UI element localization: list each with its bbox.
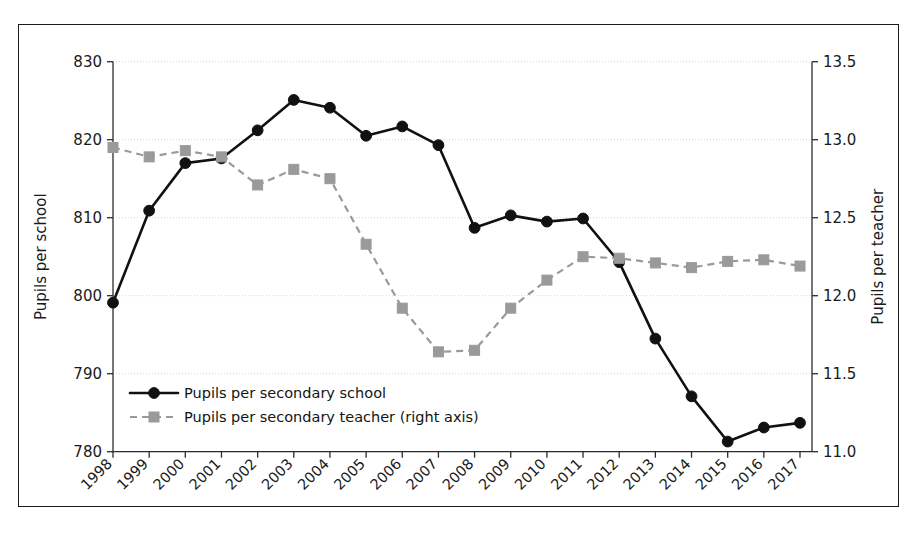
data-point-school (288, 95, 299, 106)
data-point-teacher (144, 152, 154, 162)
x-axis-tick-label: 2007 (403, 456, 440, 493)
data-point-teacher (795, 261, 805, 271)
x-axis-tick-label: 2010 (512, 456, 549, 493)
x-axis-tick-label: 2004 (295, 456, 332, 493)
right-axis-tick-label: 12.0 (823, 287, 856, 305)
left-axis-tick-label: 800 (73, 287, 102, 305)
line-chart: 78079080081082083011.011.512.012.513.013… (0, 0, 920, 533)
data-point-school (144, 205, 155, 216)
data-point-teacher (325, 174, 335, 184)
data-point-school (361, 130, 372, 141)
chart-legend[interactable]: Pupils per secondary schoolPupils per se… (130, 385, 479, 425)
data-point-teacher (180, 146, 190, 156)
data-point-teacher (397, 303, 407, 313)
data-point-teacher (759, 255, 769, 265)
data-point-teacher (542, 275, 552, 285)
data-point-teacher (687, 263, 697, 273)
x-axis-tick-label: 2016 (729, 456, 766, 493)
data-point-teacher (578, 252, 588, 262)
x-axis-tick-label: 2015 (692, 456, 729, 493)
x-axis-tick-label: 2001 (186, 456, 223, 493)
data-point-school (505, 210, 516, 221)
left-axis-tick-label: 810 (73, 209, 102, 227)
left-axis-title: Pupils per school (32, 193, 50, 320)
data-point-school (541, 216, 552, 227)
x-axis-tick-label: 1999 (114, 456, 151, 493)
data-point-school (650, 333, 661, 344)
legend-label-school: Pupils per secondary school (184, 385, 386, 401)
data-point-teacher (506, 303, 516, 313)
right-axis-title: Pupils per teacher (869, 188, 887, 325)
x-axis-tick-label: 2017 (765, 456, 802, 493)
legend-marker-school (149, 388, 160, 399)
x-axis-tick-label: 2002 (222, 456, 259, 493)
data-point-teacher (723, 256, 733, 266)
data-point-school (758, 422, 769, 433)
data-point-school (469, 222, 480, 233)
left-axis-tick-label: 780 (73, 443, 102, 461)
data-point-teacher (108, 143, 118, 153)
data-point-teacher (289, 164, 299, 174)
x-axis-tick-label: 2012 (584, 456, 621, 493)
data-point-school (795, 417, 806, 428)
data-point-teacher (433, 347, 443, 357)
right-axis-tick-label: 11.5 (823, 365, 856, 383)
chart-root: 78079080081082083011.011.512.012.513.013… (0, 0, 920, 533)
x-axis-tick-label: 2005 (331, 456, 368, 493)
data-point-school (108, 297, 119, 308)
left-axis-tick-label: 830 (73, 53, 102, 71)
data-point-school (686, 391, 697, 402)
data-point-school (397, 121, 408, 132)
right-axis-tick-label: 13.5 (823, 53, 856, 71)
data-point-teacher (253, 180, 263, 190)
right-axis-tick-label: 13.0 (823, 131, 856, 149)
data-point-teacher (470, 345, 480, 355)
left-axis-tick-label: 820 (73, 131, 102, 149)
x-axis-tick-label: 2008 (439, 456, 476, 493)
series-line-teacher (113, 148, 800, 352)
data-point-teacher (216, 152, 226, 162)
right-axis-tick-label: 12.5 (823, 209, 856, 227)
left-axis-tick-label: 790 (73, 365, 102, 383)
x-axis-tick-label: 2014 (656, 456, 693, 493)
x-axis-tick-label: 2003 (259, 456, 296, 493)
data-point-school (325, 102, 336, 113)
data-point-school (722, 436, 733, 447)
x-axis-tick-label: 2009 (475, 456, 512, 493)
x-axis-tick-label: 2013 (620, 456, 657, 493)
legend-label-teacher: Pupils per secondary teacher (right axis… (184, 409, 479, 425)
data-point-school (433, 140, 444, 151)
data-point-teacher (650, 258, 660, 268)
data-point-teacher (361, 239, 371, 249)
x-axis-tick-label: 2000 (150, 456, 187, 493)
data-point-teacher (614, 253, 624, 263)
right-axis-tick-label: 11.0 (823, 443, 856, 461)
x-axis-tick-label: 2011 (548, 456, 585, 493)
data-point-school (252, 125, 263, 136)
x-axis-tick-label: 2006 (367, 456, 404, 493)
data-point-school (180, 158, 191, 169)
data-point-school (578, 213, 589, 224)
legend-marker-teacher (149, 412, 159, 422)
